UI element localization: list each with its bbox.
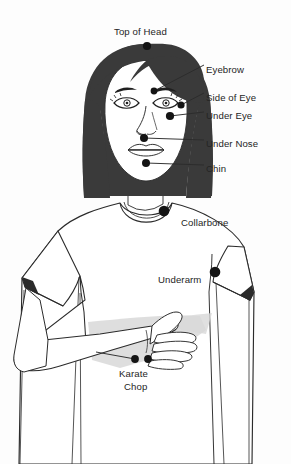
- eft-tapping-points-diagram: Top of Head Eyebrow Side of Eye Under Ey…: [0, 0, 291, 464]
- point-karate-chop-2: [144, 355, 152, 363]
- point-underarm: [210, 267, 221, 278]
- point-chin: [142, 159, 150, 167]
- label-karate-chop-line2: Chop: [124, 381, 147, 393]
- point-under-nose: [140, 134, 148, 142]
- label-chin: Chin: [206, 163, 226, 175]
- finger-pinky: [148, 360, 183, 370]
- point-karate-chop-1: [131, 355, 139, 363]
- label-side-of-eye: Side of Eye: [206, 92, 256, 104]
- eye-right: [153, 98, 178, 109]
- point-eyebrow: [151, 88, 158, 95]
- point-top-of-head: [143, 42, 151, 50]
- point-under-eye: [166, 112, 174, 120]
- head-group: [83, 44, 213, 198]
- label-top-of-head: Top of Head: [114, 26, 167, 38]
- label-underarm: Underarm: [158, 274, 201, 286]
- label-collarbone: Collarbone: [181, 217, 228, 229]
- label-under-nose: Under Nose: [206, 138, 258, 150]
- label-under-eye: Under Eye: [206, 110, 252, 122]
- figure-illustration: [0, 0, 291, 464]
- label-eyebrow: Eyebrow: [206, 64, 244, 76]
- point-collarbone: [159, 206, 170, 217]
- eye-left: [114, 98, 139, 109]
- label-karate-chop-line1: Karate: [119, 368, 148, 380]
- point-side-of-eye: [177, 101, 184, 108]
